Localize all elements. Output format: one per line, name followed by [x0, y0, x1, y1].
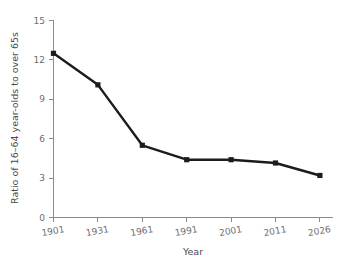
y-tick-label: 6	[39, 134, 45, 144]
x-axis-title: Year	[182, 246, 203, 257]
data-point-marker	[95, 82, 100, 87]
y-tick-label: 12	[34, 55, 45, 65]
data-point-marker	[51, 51, 56, 56]
x-tick-label: 1991	[174, 224, 198, 238]
chart-container: 0 3 6 9 12 15 1901 1931 1961 1991 2001 2…	[0, 0, 350, 264]
y-tick-label: 15	[34, 16, 45, 26]
data-point-marker	[229, 157, 234, 162]
y-tick-label: 0	[39, 213, 45, 223]
x-tick-label: 1961	[130, 224, 154, 238]
y-axis-tick-labels: 0 3 6 9 12 15	[34, 16, 46, 223]
data-point-marker	[273, 160, 278, 165]
y-tick-label: 3	[39, 173, 45, 183]
x-tick-label: 2026	[307, 224, 332, 238]
x-tick-label: 2001	[218, 224, 242, 238]
data-point-marker	[184, 157, 189, 162]
x-axis-tick-labels: 1901 1931 1961 1991 2001 2011 2026	[41, 224, 332, 238]
x-tick-label: 2011	[263, 224, 287, 238]
x-tick-label: 1901	[41, 224, 65, 238]
data-point-marker	[317, 173, 322, 178]
data-point-marker	[140, 143, 145, 148]
y-axis-ticks	[49, 21, 54, 218]
y-tick-label: 9	[39, 94, 45, 104]
y-axis-title: Ratio of 16–64 year-olds to over 65s	[9, 32, 20, 204]
x-axis-ticks	[54, 218, 320, 223]
line-chart: 0 3 6 9 12 15 1901 1931 1961 1991 2001 2…	[0, 0, 350, 264]
plot-area	[53, 16, 333, 217]
x-tick-label: 1931	[85, 224, 109, 238]
